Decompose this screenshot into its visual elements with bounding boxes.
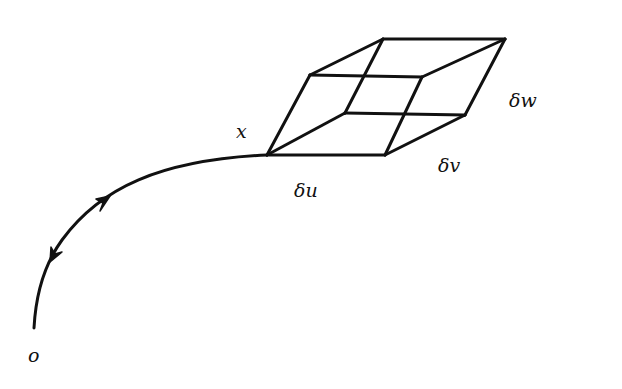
edge-eh <box>310 39 383 75</box>
parallelepiped <box>267 39 505 155</box>
edge-fg <box>422 39 505 77</box>
label-point: x <box>236 120 247 142</box>
diagram-svg: o x δu δv δw <box>0 0 622 389</box>
diagram-canvas: o x δu δv δw <box>0 0 622 389</box>
path-curve <box>34 155 267 328</box>
edge-bf <box>385 77 422 155</box>
edge-dw <box>465 39 505 115</box>
label-du: δu <box>294 179 318 201</box>
edge-dv <box>385 115 465 155</box>
label-origin: o <box>28 344 39 366</box>
label-dw: δw <box>509 89 537 111</box>
label-dv: δv <box>438 154 460 176</box>
edge-dc <box>345 113 465 115</box>
